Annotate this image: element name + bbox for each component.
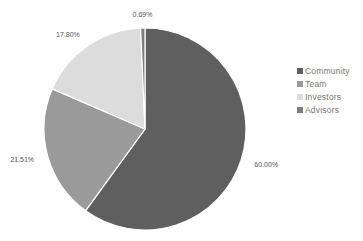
legend-item-investors[interactable]: Investors: [297, 90, 350, 103]
legend-swatch-icon: [297, 107, 303, 113]
legend-swatch-icon: [297, 68, 303, 74]
pie-slices: [44, 28, 246, 230]
slice-percent-label: 60.00%: [254, 161, 278, 168]
legend-label: Investors: [305, 92, 341, 102]
legend: Community Team Investors Advisors: [297, 64, 350, 116]
legend-swatch-icon: [297, 81, 303, 87]
legend-label: Team: [305, 79, 327, 89]
pie-chart: 60.00%21.51%17.80%0.69%: [0, 0, 363, 241]
slice-percent-label: 0.69%: [133, 11, 153, 18]
legend-item-team[interactable]: Team: [297, 77, 350, 90]
slice-percent-label: 17.80%: [56, 31, 80, 38]
legend-item-advisors[interactable]: Advisors: [297, 103, 350, 116]
legend-swatch-icon: [297, 94, 303, 100]
legend-label: Advisors: [305, 105, 339, 115]
legend-label: Community: [305, 66, 350, 76]
legend-item-community[interactable]: Community: [297, 64, 350, 77]
slice-percent-label: 21.51%: [10, 156, 34, 163]
